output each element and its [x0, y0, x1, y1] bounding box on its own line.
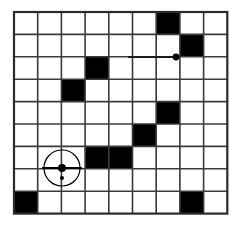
filled-cell — [61, 79, 85, 101]
filled-cell — [85, 57, 109, 79]
filled-cell — [180, 34, 204, 56]
filled-cell — [133, 124, 157, 146]
filled-cell — [156, 102, 180, 124]
cursor-center-dot[interactable] — [58, 164, 66, 172]
filled-cell — [109, 146, 133, 168]
grid-figure — [0, 0, 245, 230]
diagram-root — [0, 0, 245, 230]
filled-cell — [85, 146, 109, 168]
grid-svg — [0, 0, 245, 230]
cursor-secondary-dot — [60, 176, 64, 180]
filled-cell — [156, 12, 180, 34]
anchor-point-dot — [173, 54, 180, 61]
filled-cell — [180, 191, 204, 213]
filled-cell — [14, 191, 38, 213]
